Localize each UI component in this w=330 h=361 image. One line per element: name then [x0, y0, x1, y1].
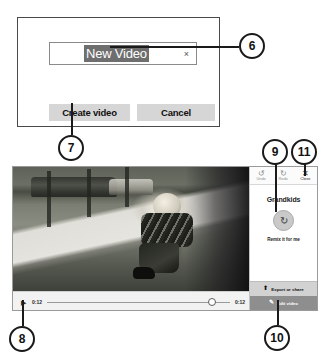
- callout-leader-7: [71, 103, 73, 135]
- callout-8: 8: [9, 326, 35, 352]
- callout-7: 7: [58, 135, 84, 161]
- panel-body: Grandkids ↻ Remix it for me: [250, 185, 317, 281]
- total-time-label: 0:12: [235, 299, 245, 305]
- photo-child-shoe: [133, 267, 155, 279]
- video-preview-image[interactable]: [13, 167, 251, 291]
- create-video-button[interactable]: Create video: [49, 104, 130, 121]
- callout-leader-9: [275, 158, 277, 212]
- cancel-button[interactable]: Cancel: [137, 104, 215, 121]
- export-icon: ⬆: [263, 286, 268, 292]
- redo-label: Redo: [279, 178, 288, 182]
- video-preview-window: ▶ 0:12 0:12 ↺ Undo ↻ Redo ✕ Close Grandk…: [12, 166, 318, 311]
- clear-icon[interactable]: ×: [184, 49, 189, 58]
- callout-leader-8: [22, 300, 24, 326]
- photo-post: [87, 169, 91, 217]
- photo-vehicle-dark: [31, 177, 117, 197]
- callout-10: 10: [264, 325, 290, 351]
- callout-11: 11: [291, 139, 317, 165]
- export-or-share-button[interactable]: ⬆ Export or share: [250, 281, 317, 296]
- callout-9: 9: [262, 139, 288, 165]
- photo-post: [125, 167, 129, 207]
- callout-leader-10: [277, 300, 279, 325]
- panel-toolbar: ↺ Undo ↻ Redo ✕ Close: [250, 167, 317, 185]
- video-side-panel: ↺ Undo ↻ Redo ✕ Close Grandkids ↻ Remix …: [249, 167, 317, 310]
- edit-label: Edit video: [277, 301, 298, 306]
- scrubber-track: [47, 302, 230, 303]
- photo-shadow-overlay: [185, 167, 251, 291]
- scrubber[interactable]: [47, 297, 230, 308]
- remix-label[interactable]: Remix it for me: [267, 237, 299, 242]
- edit-icon: ✎: [269, 300, 274, 306]
- photo-post: [47, 171, 51, 227]
- close-label: Close: [301, 178, 311, 182]
- callout-leader-6: [110, 46, 239, 48]
- current-time-label: 0:12: [32, 299, 42, 305]
- export-label: Export or share: [271, 287, 303, 292]
- remix-icon[interactable]: ↻: [273, 210, 294, 231]
- create-video-dialog: New Video × Create video Cancel: [17, 17, 220, 127]
- project-title: Grandkids: [267, 196, 301, 203]
- scrubber-handle[interactable]: [208, 298, 216, 306]
- undo-button[interactable]: ↺ Undo: [250, 167, 272, 184]
- playback-bar: ▶ 0:12 0:12: [13, 291, 251, 311]
- callout-6: 6: [239, 33, 265, 59]
- edit-video-button[interactable]: ✎ Edit video: [250, 296, 317, 310]
- photo-vehicle-light: [109, 179, 153, 195]
- undo-label: Undo: [257, 178, 266, 182]
